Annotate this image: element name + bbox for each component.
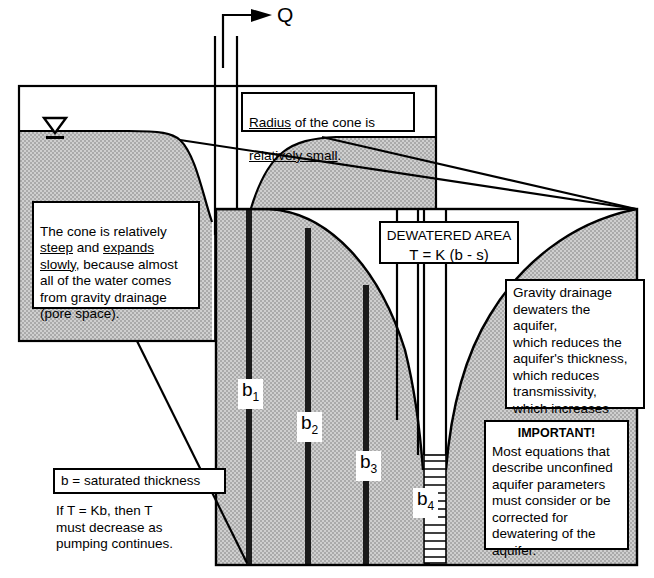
thickness-bar-b2 — [305, 228, 311, 565]
discharge-arrow-icon — [251, 9, 272, 22]
steep-underline: steep — [40, 240, 73, 255]
thickness-label-b2-base: b — [301, 412, 312, 433]
saturated-thickness-definition: b = saturated thickness — [61, 473, 200, 488]
thickness-label-b3-base: b — [360, 451, 371, 472]
important-text: Most equations that describe unconfined … — [492, 444, 621, 560]
thickness-label-b3: b3 — [356, 451, 381, 481]
thickness-label-b4: b4 — [413, 488, 438, 518]
thickness-label-b1: b1 — [238, 379, 263, 409]
saturated-thickness-definition-box: b = saturated thickness — [53, 468, 226, 494]
relatively-small-underline: relatively small — [249, 148, 338, 163]
radius-callout-line2: relatively small. — [249, 148, 341, 163]
cone-callout-seg1: The cone is relatively — [40, 224, 167, 239]
important-box: IMPORTANT! Most equations that describe … — [484, 420, 629, 550]
thickness-label-b1-base: b — [242, 379, 253, 400]
dewatered-area-box: DEWATERED AREA T = K (b - s) — [379, 221, 519, 264]
gravity-drainage-box: Gravity drainage dewaters the aquifer, w… — [505, 279, 645, 409]
radius-underline: Radius — [249, 115, 291, 130]
thickness-label-b4-base: b — [417, 488, 428, 509]
thickness-label-b2-sub: 2 — [312, 423, 319, 437]
discharge-label: Q — [277, 3, 293, 27]
dewatered-area-title: DEWATERED AREA — [381, 226, 517, 245]
thickness-bar-b3 — [363, 285, 369, 565]
cone-callout-seg2: and — [73, 240, 103, 255]
cone-callout-box: The cone is relatively steep and expands… — [32, 201, 200, 309]
thickness-label-b4-sub: 4 — [428, 499, 435, 513]
thickness-label-b3-sub: 3 — [371, 462, 378, 476]
saturated-thickness-note: If T = Kb, then T must decrease as pumpi… — [56, 503, 241, 563]
dewatered-area-equation: T = K (b - s) — [381, 245, 517, 264]
important-title: IMPORTANT! — [492, 425, 621, 442]
radius-callout-line1: Radius of the cone is — [249, 115, 375, 130]
radius-callout-box: Radius of the cone is relatively small. — [241, 92, 415, 132]
thickness-label-b2: b2 — [297, 412, 322, 442]
thickness-label-b1-sub: 1 — [253, 390, 260, 404]
